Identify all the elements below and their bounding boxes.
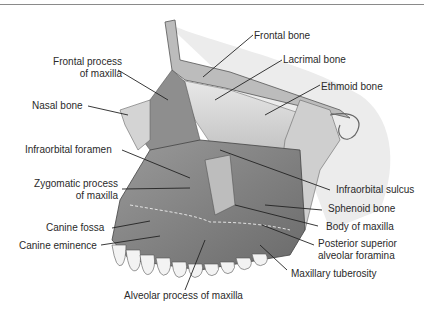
label-frontal-bone: Frontal bone <box>254 30 310 42</box>
label-canine-eminence: Canine eminence <box>19 240 97 252</box>
label-zygomatic-process-line2: of maxilla <box>20 190 118 202</box>
label-body-of-maxilla: Body of maxilla <box>326 221 394 233</box>
label-maxillary-tuberosity: Maxillary tuberosity <box>291 268 377 280</box>
label-infraorbital-sulcus: Infraorbital sulcus <box>336 184 414 196</box>
label-posterior-superior-line1: Posterior superior <box>318 238 397 250</box>
label-alveolar-process: Alveolar process of maxilla <box>124 290 243 302</box>
label-zygomatic-process-line1: Zygomatic process <box>20 178 118 190</box>
label-sphenoid-bone: Sphenoid bone <box>328 203 395 215</box>
label-frontal-process-line1: Frontal process <box>48 56 122 68</box>
label-canine-fossa: Canine fossa <box>46 222 104 234</box>
label-infraorbital-foramen: Infraorbital foramen <box>25 144 112 156</box>
label-nasal-bone: Nasal bone <box>32 100 83 112</box>
label-posterior-superior-line2: alveolar foramina <box>318 250 395 262</box>
label-ethmoid-bone: Ethmoid bone <box>321 81 383 93</box>
label-frontal-process-line2: of maxilla <box>48 68 122 80</box>
label-lacrimal-bone: Lacrimal bone <box>283 54 346 66</box>
